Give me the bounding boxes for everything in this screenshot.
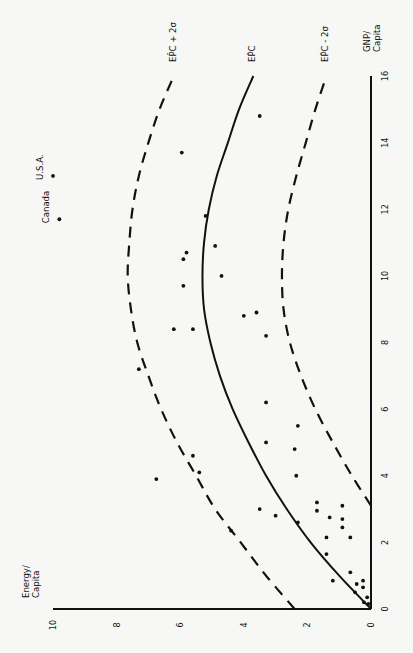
data-point	[365, 595, 369, 599]
data-point	[229, 529, 233, 533]
energy-axis-title-line2: Capita	[30, 570, 41, 598]
data-point	[180, 151, 184, 155]
gnp-tick-label: 14	[380, 137, 390, 147]
data-point	[367, 602, 371, 606]
axes: 02468101214160246810	[48, 71, 390, 630]
curves	[128, 76, 371, 609]
data-point	[181, 257, 185, 261]
data-point	[315, 501, 319, 505]
data-point	[361, 585, 365, 589]
data-point	[264, 334, 268, 338]
gnp-tick-label: 12	[380, 204, 390, 214]
data-point	[328, 515, 332, 519]
epc-curve	[202, 76, 371, 609]
energy-tick-label: 0	[366, 622, 376, 627]
data-point	[191, 327, 195, 331]
epc-minus-2sigma-curve	[282, 76, 371, 506]
data-point	[185, 251, 189, 255]
labels: GNP/CapitaEnergy/CapitaEP̂C + 2σEP̂CEP̂C…	[20, 21, 382, 598]
data-point	[361, 579, 365, 583]
gnp-tick-label: 6	[380, 407, 390, 412]
energy-tick-label: 6	[175, 622, 185, 627]
data-point	[340, 504, 344, 508]
data-point	[191, 454, 195, 458]
data-point	[172, 327, 176, 331]
data-point	[348, 535, 352, 539]
gnp-tick-label: 4	[380, 473, 390, 478]
data-point	[325, 535, 329, 539]
energy-tick-label: 10	[48, 620, 58, 630]
data-point	[353, 590, 357, 594]
data-point	[294, 474, 298, 478]
annotation-canada: Canada	[40, 191, 51, 224]
data-point	[340, 525, 344, 529]
point-canada	[57, 217, 61, 221]
data-point	[362, 600, 366, 604]
data-point	[154, 477, 158, 481]
epc-minus-2sigma-label: EP̂C - 2σ	[319, 26, 330, 62]
data-point	[348, 570, 352, 574]
gnp-axis-title-line2: Capita	[371, 24, 382, 52]
data-point	[181, 284, 185, 288]
data-point	[331, 579, 335, 583]
data-point	[258, 114, 262, 118]
data-point	[264, 401, 268, 405]
data-point	[274, 514, 278, 518]
gnp-tick-label: 16	[380, 71, 390, 81]
epc-label: EP̂C	[246, 45, 257, 62]
data-point	[264, 441, 268, 445]
energy-tick-label: 2	[302, 622, 312, 627]
gnp-tick-label: 10	[380, 271, 390, 281]
data-point	[315, 509, 319, 513]
energy-tick-label: 8	[112, 622, 122, 627]
data-point	[213, 244, 217, 248]
data-points	[51, 114, 370, 606]
data-point	[255, 311, 259, 315]
data-point	[296, 520, 300, 524]
data-point	[293, 447, 297, 451]
gnp-tick-label: 2	[380, 540, 390, 545]
epc-plus-2sigma-label: EP̂C + 2σ	[167, 21, 178, 62]
data-point	[220, 274, 224, 278]
data-point	[325, 552, 329, 556]
data-point	[340, 517, 344, 521]
data-point	[197, 471, 201, 475]
data-point	[258, 507, 262, 511]
annotation-usa: U.S.A.	[34, 154, 45, 180]
data-point	[242, 314, 246, 318]
data-point	[204, 214, 208, 218]
data-point	[137, 367, 141, 371]
energy-vs-gnp-chart: 02468101214160246810 GNP/CapitaEnergy/Ca…	[0, 0, 413, 653]
gnp-tick-label: 0	[380, 606, 390, 611]
gnp-tick-label: 8	[380, 340, 390, 345]
point-usa	[51, 174, 55, 178]
data-point	[355, 582, 359, 586]
data-point	[296, 424, 300, 428]
energy-tick-label: 4	[239, 622, 249, 627]
